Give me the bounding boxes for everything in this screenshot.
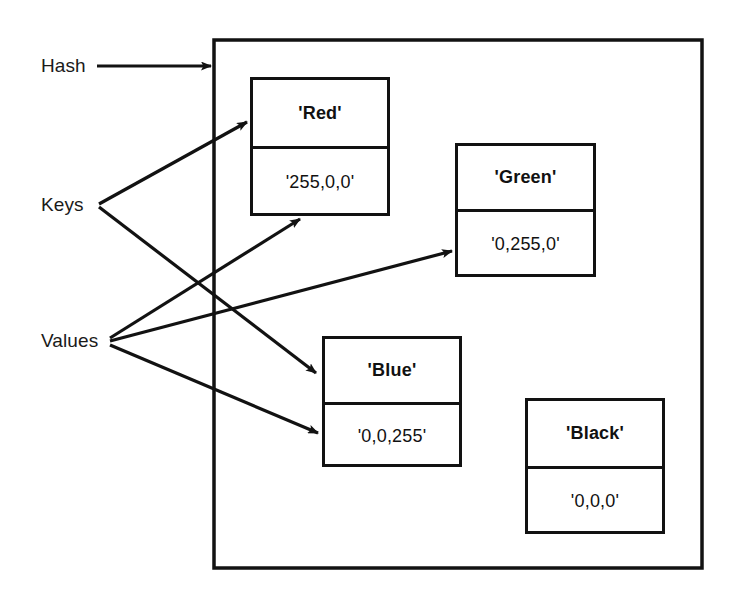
hash-entry-blue-key: 'Blue' bbox=[325, 339, 459, 405]
label-hash: Hash bbox=[41, 55, 86, 77]
hash-entry-blue: 'Blue' '0,0,255' bbox=[322, 336, 462, 467]
hash-entry-blue-value: '0,0,255' bbox=[325, 405, 459, 467]
hash-entry-green-value: '0,255,0' bbox=[458, 212, 593, 277]
hash-entry-black-value: '0,0,0' bbox=[528, 469, 662, 534]
hash-entry-green: 'Green' '0,255,0' bbox=[455, 143, 596, 277]
connector-values-to-green bbox=[110, 251, 452, 341]
connector-keys-to-blue bbox=[99, 207, 316, 373]
diagram-canvas: Hash Keys Values 'Red' '255,0,0' 'Green'… bbox=[0, 0, 733, 594]
label-keys: Keys bbox=[41, 194, 84, 216]
label-values: Values bbox=[41, 330, 98, 352]
connector-keys-to-red bbox=[99, 122, 247, 204]
hash-entry-green-key: 'Green' bbox=[458, 146, 593, 212]
hash-entry-black: 'Black' '0,0,0' bbox=[525, 398, 665, 534]
hash-entry-black-key: 'Black' bbox=[528, 401, 662, 469]
hash-entry-red-value: '255,0,0' bbox=[253, 149, 387, 216]
hash-entry-red-key: 'Red' bbox=[253, 80, 387, 149]
hash-entry-red: 'Red' '255,0,0' bbox=[250, 77, 390, 216]
